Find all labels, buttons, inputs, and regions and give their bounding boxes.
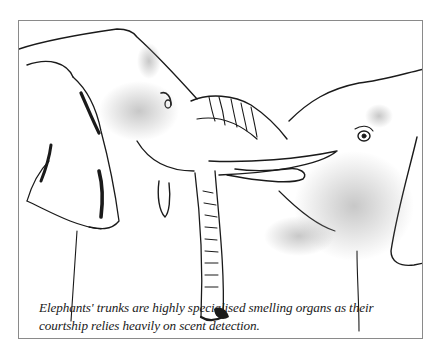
figure-frame: Elephants' trunks are highly specialised…	[18, 20, 423, 339]
elephants-illustration	[19, 21, 423, 339]
figure-caption: Elephants' trunks are highly specialised…	[39, 299, 409, 335]
